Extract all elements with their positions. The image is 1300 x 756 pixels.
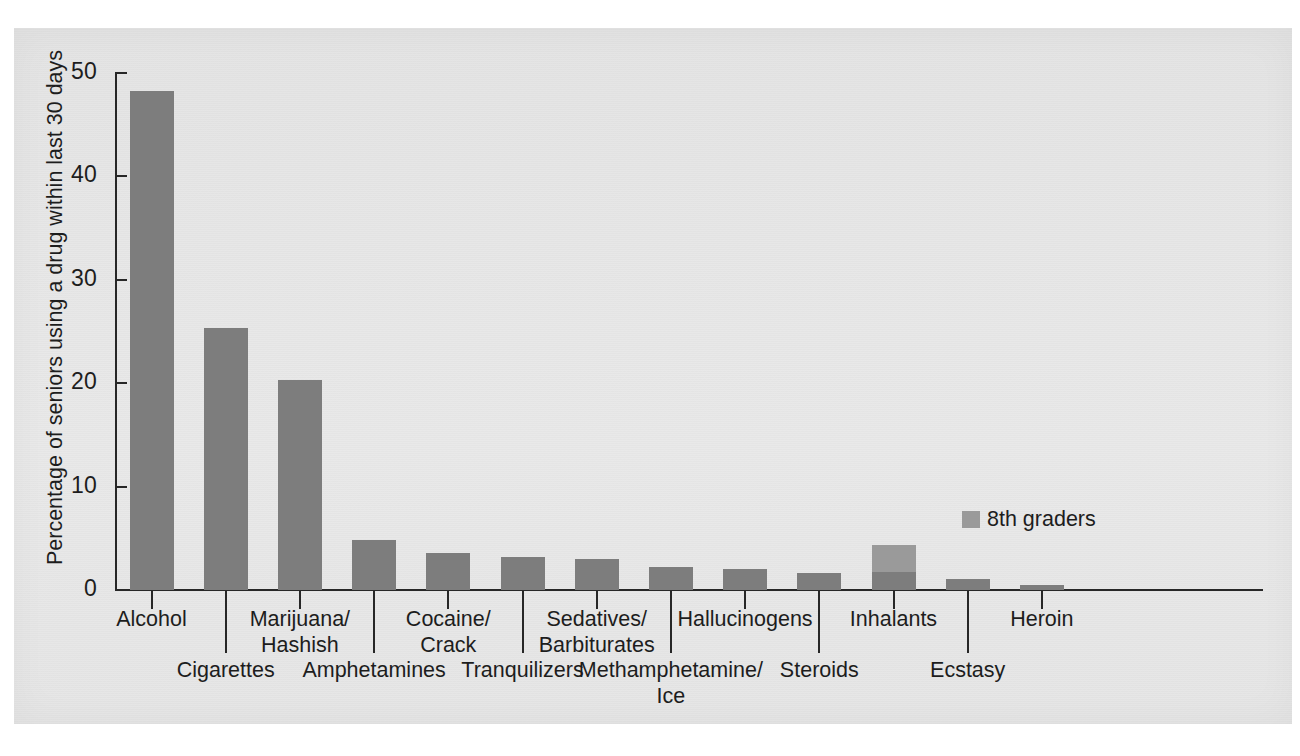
bar-seniors-3 — [352, 540, 396, 590]
bar-seniors-1 — [204, 328, 248, 590]
legend-label-8th-graders: 8th graders — [987, 507, 1096, 532]
bar-seniors-7 — [649, 567, 693, 590]
bar-seniors-6 — [575, 559, 619, 590]
y-tick-30 — [115, 279, 127, 281]
chart-page: Percentage of seniors using a drug withi… — [0, 0, 1300, 756]
y-tick-label-0: 0 — [57, 575, 97, 602]
chart-legend: 8th graders — [962, 507, 1096, 532]
y-tick-label-20: 20 — [57, 368, 97, 395]
y-tick-label-30: 30 — [57, 265, 97, 292]
y-tick-50 — [115, 72, 127, 74]
bar-seniors-8 — [723, 569, 767, 590]
bar-seniors-2 — [278, 380, 322, 590]
legend-swatch-8th-graders — [962, 511, 980, 528]
x-label-7-line2: Ice — [657, 684, 686, 708]
bar-seniors-5 — [501, 557, 545, 590]
x-label-6-line2: Barbiturates — [539, 633, 655, 657]
bar-seniors-4 — [426, 553, 470, 590]
bar-seniors-9 — [797, 573, 841, 590]
bar-seniors-11 — [946, 579, 990, 590]
y-tick-label-40: 40 — [57, 161, 97, 188]
y-tick-10 — [115, 486, 127, 488]
x-label-12: Heroin — [912, 606, 1172, 632]
y-tick-label-50: 50 — [57, 58, 97, 85]
bar-8th-graders-10 — [872, 545, 916, 573]
y-tick-0 — [115, 589, 127, 591]
y-tick-label-10: 10 — [57, 472, 97, 499]
bar-chart-plot-area: Percentage of seniors using a drug withi… — [0, 0, 1300, 756]
bar-seniors-0 — [130, 91, 174, 590]
y-tick-40 — [115, 175, 127, 177]
x-label-11: Ecstasy — [838, 657, 1098, 683]
y-tick-20 — [115, 382, 127, 384]
y-axis-line — [115, 73, 117, 591]
bar-seniors-10 — [872, 572, 916, 590]
bar-seniors-12 — [1020, 585, 1064, 590]
